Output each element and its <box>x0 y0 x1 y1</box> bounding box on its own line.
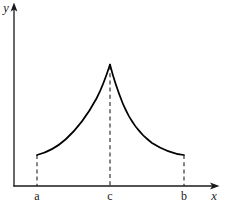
function-plot-svg: a c b y x <box>0 0 227 208</box>
figure-container: a c b y x <box>0 0 227 208</box>
y-axis-label: y <box>1 1 9 15</box>
tick-label-a: a <box>34 189 40 203</box>
x-axis-label: x <box>210 189 217 203</box>
curve-right-branch <box>110 65 184 156</box>
tick-label-c: c <box>107 189 112 203</box>
tick-label-b: b <box>181 189 187 203</box>
curve-left-branch <box>37 65 110 156</box>
